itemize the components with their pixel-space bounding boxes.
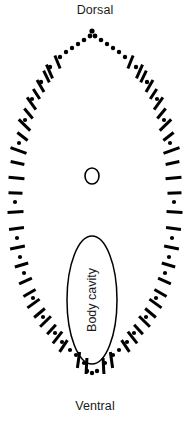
body-cavity-label: Body cavity xyxy=(85,268,99,332)
body-wall-outline-right xyxy=(90,34,183,376)
ventral-label: Ventral xyxy=(0,399,190,413)
diagram-canvas xyxy=(0,0,190,422)
inner-circle-structure xyxy=(85,168,99,184)
dorsal-apex-dot xyxy=(89,28,94,33)
anatomical-diagram-figure: Dorsal xyxy=(0,0,190,422)
body-wall-outline-left xyxy=(7,34,92,374)
